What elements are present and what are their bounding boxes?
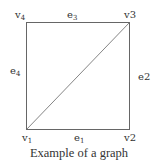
edge-label-e1: e1 <box>74 133 84 143</box>
vertex-label-v4: v4 <box>15 10 25 20</box>
figure-caption: Example of a graph <box>0 146 158 160</box>
vertex-v2-base: v2 <box>124 132 136 143</box>
edge-e4-index: 4 <box>16 70 20 78</box>
vertex-label-v3: v3 <box>124 10 136 20</box>
vertex-v3-base: v3 <box>124 9 136 20</box>
edge-label-e2: e2 <box>138 72 150 82</box>
edge-diagonal <box>27 23 130 130</box>
edge-label-e4: e4 <box>10 66 20 76</box>
vertex-label-v2: v2 <box>124 133 136 143</box>
vertex-v1-index: 1 <box>28 137 32 145</box>
vertex-v4-index: 4 <box>21 14 25 22</box>
edge-e2-base: e2 <box>138 71 150 82</box>
edge-e1-index: 1 <box>80 137 84 145</box>
edge-label-e3: e3 <box>67 10 77 20</box>
edge-e3-index: 3 <box>73 14 77 22</box>
vertex-label-v1: v1 <box>22 133 32 143</box>
